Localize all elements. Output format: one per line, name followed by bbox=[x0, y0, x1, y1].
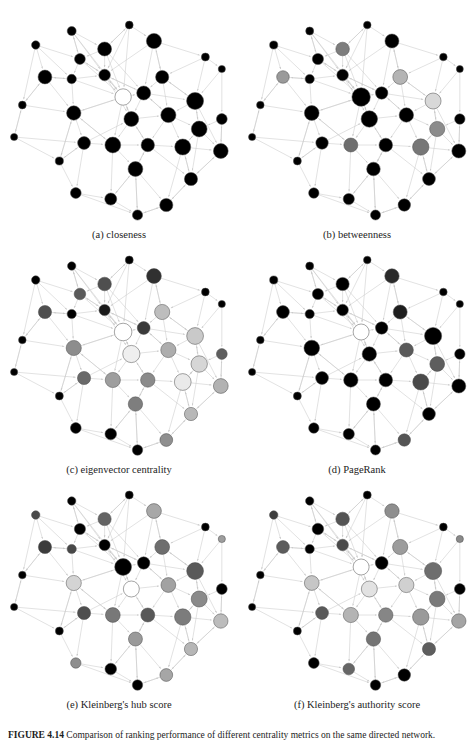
graph-edge bbox=[171, 122, 178, 138]
graph-edge bbox=[74, 534, 78, 543]
graph-node bbox=[128, 162, 143, 177]
graph-edge bbox=[196, 392, 214, 409]
graph-edge bbox=[356, 150, 368, 163]
graph-edge bbox=[26, 576, 64, 582]
graph-edge bbox=[365, 107, 366, 111]
graph-edge bbox=[109, 499, 125, 514]
graph-node bbox=[98, 512, 111, 525]
graph-node bbox=[70, 188, 81, 199]
graph-node bbox=[67, 74, 76, 83]
panel-c: (c) eigenvector centrality bbox=[0, 239, 238, 477]
graph-edge bbox=[118, 620, 129, 632]
graph-edge bbox=[40, 516, 73, 526]
graph-node bbox=[184, 407, 197, 420]
graph-node bbox=[74, 523, 85, 534]
graph-edge bbox=[61, 165, 72, 187]
graph-edge bbox=[90, 594, 123, 610]
graph-edge bbox=[314, 120, 319, 135]
graph-edge bbox=[377, 153, 382, 163]
graph-node bbox=[98, 277, 112, 291]
graph-edge bbox=[136, 413, 137, 445]
graph-edge bbox=[171, 529, 202, 543]
graph-edge bbox=[76, 551, 113, 564]
graph-edge bbox=[388, 329, 423, 334]
graph-edge bbox=[81, 335, 113, 345]
graph-edge bbox=[378, 174, 399, 199]
graph-edge bbox=[388, 317, 395, 323]
graph-node bbox=[312, 288, 323, 299]
graph-node bbox=[125, 256, 133, 264]
graph-edge bbox=[209, 59, 218, 65]
graph-node bbox=[379, 608, 393, 622]
graph-edge bbox=[374, 362, 382, 374]
figure-caption-label: FIGURE 4.14 bbox=[8, 730, 64, 740]
graph-edge bbox=[429, 148, 450, 150]
graph-node bbox=[305, 544, 314, 553]
node-layer bbox=[249, 21, 466, 220]
graph-edge bbox=[139, 388, 144, 397]
graph-edge bbox=[408, 294, 440, 309]
graph-edge bbox=[319, 100, 351, 110]
graph-node bbox=[306, 262, 314, 270]
graph-node bbox=[399, 108, 413, 122]
graph-edge bbox=[377, 351, 398, 353]
graph-node bbox=[343, 607, 358, 622]
graph-edge bbox=[347, 264, 363, 279]
graph-edge bbox=[435, 346, 437, 356]
graph-node bbox=[398, 669, 410, 681]
graph-edge bbox=[118, 386, 129, 398]
graph-edge bbox=[177, 105, 188, 111]
graph-edge bbox=[382, 677, 398, 683]
graph-edge bbox=[375, 128, 382, 140]
graph-edge bbox=[221, 124, 222, 141]
graph-edge bbox=[356, 360, 365, 373]
graph-edge bbox=[163, 84, 167, 106]
graph-edge bbox=[375, 597, 382, 608]
network-graph-a bbox=[0, 4, 238, 228]
graph-edge bbox=[111, 45, 148, 70]
graph-edge bbox=[436, 531, 443, 561]
graph-edge bbox=[370, 262, 384, 271]
graph-node bbox=[316, 607, 329, 620]
graph-node bbox=[105, 372, 120, 387]
graph-edge bbox=[314, 546, 335, 549]
graph-node bbox=[11, 603, 18, 610]
graph-node bbox=[452, 144, 466, 158]
graph-edge bbox=[110, 29, 125, 44]
node-layer bbox=[249, 256, 466, 455]
graph-edge bbox=[145, 48, 152, 84]
graph-node bbox=[137, 322, 150, 335]
graph-node bbox=[141, 373, 155, 387]
graph-edge bbox=[377, 388, 382, 398]
graph-node bbox=[124, 112, 139, 127]
node-layer bbox=[249, 491, 466, 690]
graph-edge bbox=[136, 178, 137, 210]
graph-node bbox=[424, 327, 441, 344]
graph-node bbox=[114, 323, 132, 341]
graph-edge bbox=[429, 383, 450, 385]
graph-edge bbox=[49, 82, 68, 105]
graph-edge bbox=[264, 106, 302, 112]
graph-node bbox=[161, 578, 176, 593]
graph-node bbox=[67, 309, 76, 318]
graph-edge bbox=[154, 145, 172, 146]
graph-node bbox=[249, 603, 256, 610]
graph-edge bbox=[440, 72, 458, 94]
graph-edge bbox=[278, 516, 311, 526]
graph-edge bbox=[349, 45, 386, 71]
graph-edge bbox=[314, 355, 319, 370]
graph-node bbox=[184, 642, 197, 655]
graph-edge bbox=[435, 61, 442, 92]
graph-edge bbox=[256, 372, 314, 377]
graph-edge bbox=[319, 335, 351, 346]
graph-edge bbox=[150, 552, 157, 558]
graph-edge bbox=[287, 82, 306, 106]
graph-edge bbox=[275, 284, 281, 304]
figure-container: (a) closeness (b) betweenness (c) eigenv… bbox=[0, 0, 476, 742]
graph-edge bbox=[352, 176, 368, 195]
graph-edge bbox=[221, 594, 222, 611]
graph-edge bbox=[434, 392, 453, 409]
graph-edge bbox=[347, 499, 363, 514]
graph-edge bbox=[77, 385, 83, 421]
graph-edge bbox=[155, 380, 172, 381]
